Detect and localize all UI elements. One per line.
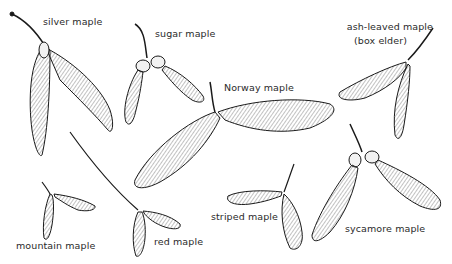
label-norway-maple: Norway maple (224, 82, 294, 93)
maple-seeds-illustration: silver maple sugar maple Norway maple as… (0, 0, 452, 264)
label-ash-leaved-maple: ash-leaved maple (327, 21, 433, 32)
label-silver-maple: silver maple (43, 16, 102, 27)
striped-maple-samara (227, 164, 302, 249)
label-box-elder: (box elder) (327, 35, 407, 46)
label-mountain-maple: mountain maple (16, 240, 95, 251)
label-sugar-maple: sugar maple (155, 28, 215, 39)
label-striped-maple: striped maple (211, 211, 278, 222)
label-sycamore-maple: sycamore maple (345, 223, 425, 234)
label-red-maple: red maple (154, 236, 203, 247)
norway-maple-samara (135, 82, 334, 188)
silver-maple-samara (10, 12, 113, 156)
mountain-maple-samara (42, 182, 95, 239)
sugar-maple-samara (125, 24, 204, 124)
